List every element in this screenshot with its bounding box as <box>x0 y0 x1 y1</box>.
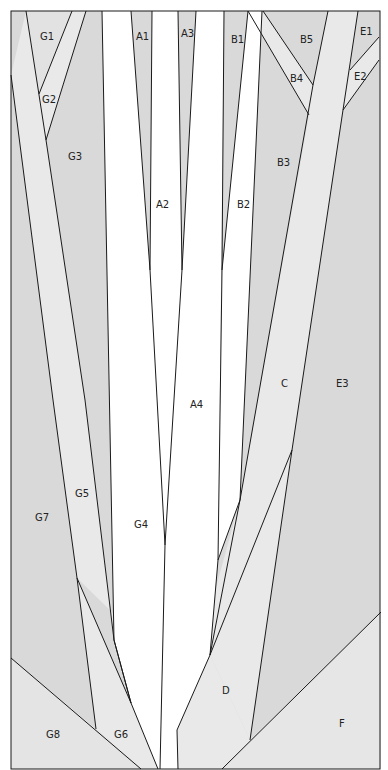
label-e2: E2 <box>354 71 367 82</box>
label-b2: B2 <box>237 199 250 210</box>
label-e3: E3 <box>336 378 349 389</box>
label-g2: G2 <box>42 94 56 105</box>
label-d: D <box>222 685 230 696</box>
label-a4: A4 <box>190 399 203 410</box>
label-a2: A2 <box>156 199 169 210</box>
label-g5: G5 <box>75 488 89 499</box>
label-g6: G6 <box>114 729 128 740</box>
label-b3: B3 <box>277 157 290 168</box>
label-e1: E1 <box>360 26 373 37</box>
label-b1: B1 <box>231 34 244 45</box>
label-a1: A1 <box>136 31 149 42</box>
label-g3: G3 <box>68 151 82 162</box>
pattern-diagram: G1 G2 G3 G4 G5 G6 G7 G8 A1 A2 A3 A4 B1 B… <box>0 0 388 770</box>
label-g7: G7 <box>35 512 49 523</box>
label-b4: B4 <box>290 73 303 84</box>
label-g1: G1 <box>40 31 54 42</box>
label-b5: B5 <box>300 34 313 45</box>
label-c: C <box>281 378 288 389</box>
label-g4: G4 <box>134 519 148 530</box>
label-a3: A3 <box>181 28 194 39</box>
label-g8: G8 <box>46 729 60 740</box>
label-f: F <box>339 718 345 729</box>
